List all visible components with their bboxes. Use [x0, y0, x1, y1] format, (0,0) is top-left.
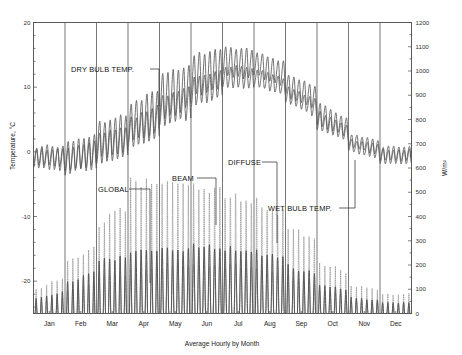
x-axis-caption: Average Hourly by Month	[185, 340, 260, 348]
leader-line-wet-bulb	[339, 160, 355, 208]
right-tick-label: 1000	[416, 67, 430, 74]
month-label-jun: Jun	[201, 320, 212, 327]
right-tick-label: 0	[416, 310, 420, 317]
right-tick-label: 600	[416, 164, 427, 171]
month-label-aug: Aug	[264, 320, 276, 328]
annotation-dry-bulb: DRY BULB TEMP.	[71, 65, 134, 74]
month-label-nov: Nov	[358, 320, 370, 327]
annotation-beam: BEAM	[172, 174, 194, 183]
left-tick-label: -10	[22, 213, 32, 220]
right-tick-label: 400	[416, 213, 427, 220]
left-tick-label: -20	[22, 277, 32, 284]
right-tick-label: 200	[416, 261, 427, 268]
left-tick-label: 10	[24, 83, 31, 90]
right-tick-label: 1200	[416, 19, 430, 26]
right-tick-label: 1100	[416, 43, 430, 50]
right-tick-label: 800	[416, 116, 427, 123]
annotation-diffuse: DIFFUSE	[228, 158, 261, 167]
annotation-wet-bulb: WET BULB TEMP.	[268, 204, 332, 213]
month-label-feb: Feb	[75, 320, 87, 327]
left-tick-label: 0	[27, 148, 31, 155]
left-tick-label: 20	[24, 19, 31, 26]
month-label-apr: Apr	[139, 320, 150, 328]
right-tick-label: 300	[416, 237, 427, 244]
right-tick-label: 500	[416, 188, 427, 195]
chart-root: 20100-10-20 0100200300400500600700800900…	[0, 0, 462, 355]
month-label-dec: Dec	[390, 320, 402, 327]
annotation-layer: DRY BULB TEMP.GLOBALBEAMDIFFUSEWET BULB …	[71, 65, 355, 283]
leader-line-diffuse	[262, 162, 277, 243]
month-label-may: May	[169, 320, 182, 328]
month-label-jul: Jul	[234, 320, 243, 327]
right-tick-label: 700	[416, 140, 427, 147]
month-label-sep: Sep	[295, 320, 307, 328]
month-label-mar: Mar	[107, 320, 119, 327]
month-label-jan: Jan	[44, 320, 55, 327]
annotation-global: GLOBAL	[98, 185, 129, 194]
weather-solar-chart: 20100-10-20 0100200300400500600700800900…	[0, 0, 462, 355]
leader-line-beam	[197, 178, 216, 225]
right-tick-label: 900	[416, 91, 427, 98]
right-axis-title: W/m²	[441, 159, 448, 176]
left-axis-title: Temperature, °C	[9, 122, 17, 170]
right-tick-label: 100	[416, 285, 427, 292]
month-axis-labels: JanFebMarAprMayJunJulAugSepOctNovDec	[44, 320, 402, 328]
month-label-oct: Oct	[328, 320, 338, 327]
